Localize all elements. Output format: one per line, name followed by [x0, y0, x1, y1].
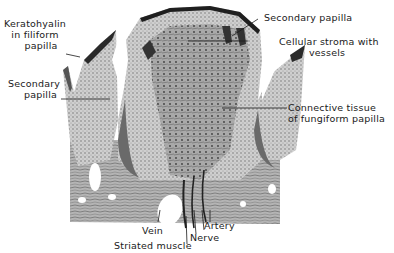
label-secondary-papilla-top: Secondary papilla — [264, 12, 352, 23]
label-cellular-stroma: Cellular stroma with vessels — [279, 36, 379, 58]
label-line: in filiform — [4, 29, 66, 40]
label-line: papilla — [24, 89, 60, 100]
label-connective-tissue: Connective tissue of fungiform papilla — [288, 102, 385, 124]
label-line: Connective tissue — [288, 102, 385, 113]
label-line: Cellular stroma with — [279, 36, 379, 47]
label-artery: Artery — [204, 220, 235, 231]
label-line: Secondary — [8, 78, 60, 89]
label-nerve: Nerve — [190, 232, 219, 243]
label-vein: Vein — [142, 225, 163, 236]
label-line: papilla — [16, 40, 66, 51]
label-line: Keratohyalin — [4, 18, 66, 29]
histology-figure: Keratohyalin in filiform papilla Seconda… — [0, 0, 394, 253]
label-striated-muscle: Striated muscle — [114, 240, 192, 251]
label-line: vessels — [309, 47, 379, 58]
label-secondary-papilla-left: Secondary papilla — [8, 78, 60, 100]
label-line: of fungiform papilla — [288, 113, 385, 124]
label-keratohyalin: Keratohyalin in filiform papilla — [4, 18, 66, 51]
